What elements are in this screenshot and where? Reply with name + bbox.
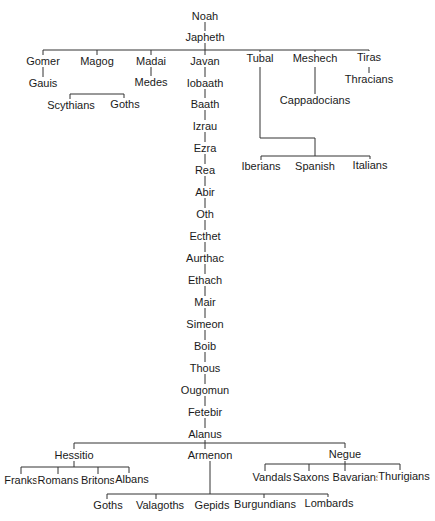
node-bavarians: Bavarians — [332, 471, 383, 483]
node-ecthet: Ecthet — [188, 230, 221, 242]
node-aurthac: Aurthac — [185, 252, 225, 264]
node-thracians: Thracians — [344, 73, 394, 85]
node-javan: Javan — [189, 55, 220, 67]
node-izrau: Izrau — [192, 120, 218, 132]
node-madai: Madai — [135, 55, 167, 67]
node-armenon: Armenon — [187, 449, 234, 461]
node-abir: Abir — [194, 186, 216, 198]
node-tubal: Tubal — [245, 52, 274, 64]
node-romans: Romans — [37, 474, 80, 486]
node-thurigians: Thurigians — [377, 470, 430, 482]
node-ezra: Ezra — [193, 142, 218, 154]
node-hessitio: Hessitio — [53, 449, 94, 461]
node-goths-magog: Goths — [109, 98, 140, 110]
node-noah: Noah — [191, 10, 219, 22]
node-baath: Baath — [190, 98, 221, 110]
node-gauis: Gauis — [28, 77, 59, 89]
node-tiras: Tiras — [356, 51, 382, 63]
node-thous: Thous — [189, 362, 222, 374]
node-japheth: Japheth — [184, 31, 225, 43]
node-britons: Britons — [80, 474, 116, 486]
node-simeon: Simeon — [185, 318, 224, 330]
node-mair: Mair — [193, 296, 216, 308]
node-iobaath: Iobaath — [186, 77, 225, 89]
node-fetebir: Fetebir — [187, 406, 223, 418]
node-boib: Boib — [193, 340, 217, 352]
node-rea: Rea — [194, 164, 216, 176]
family-tree-diagram: Noah Japheth Gomer Magog Madai Javan Tub… — [0, 0, 435, 521]
node-magog: Magog — [79, 55, 115, 67]
node-iberians: Iberians — [240, 160, 281, 172]
node-italians: Italians — [352, 159, 389, 171]
node-goths-armenon: Goths — [92, 499, 123, 511]
node-valagoths: Valagoths — [135, 499, 185, 511]
node-alanus: Alanus — [187, 428, 223, 440]
node-vandals: Vandals — [252, 471, 293, 483]
node-ethach: Ethach — [187, 274, 223, 286]
node-medes: Medes — [133, 76, 168, 88]
node-albans: Albans — [114, 473, 150, 485]
node-scythians: Scythians — [46, 99, 96, 111]
node-ougomun: Ougomun — [180, 384, 230, 396]
node-oth: Oth — [195, 208, 215, 220]
node-cappadocians: Cappadocians — [279, 94, 351, 106]
node-burgundians: Burgundians — [233, 498, 297, 510]
node-negue: Negue — [328, 448, 362, 460]
node-gepids: Gepids — [194, 499, 231, 511]
node-saxons: Saxons — [292, 471, 331, 483]
node-lombards: Lombards — [304, 497, 355, 509]
node-spanish: Spanish — [294, 160, 336, 172]
node-meshech: Meshech — [292, 52, 339, 64]
node-franks: Franks — [3, 474, 39, 486]
node-gomer: Gomer — [25, 55, 61, 67]
